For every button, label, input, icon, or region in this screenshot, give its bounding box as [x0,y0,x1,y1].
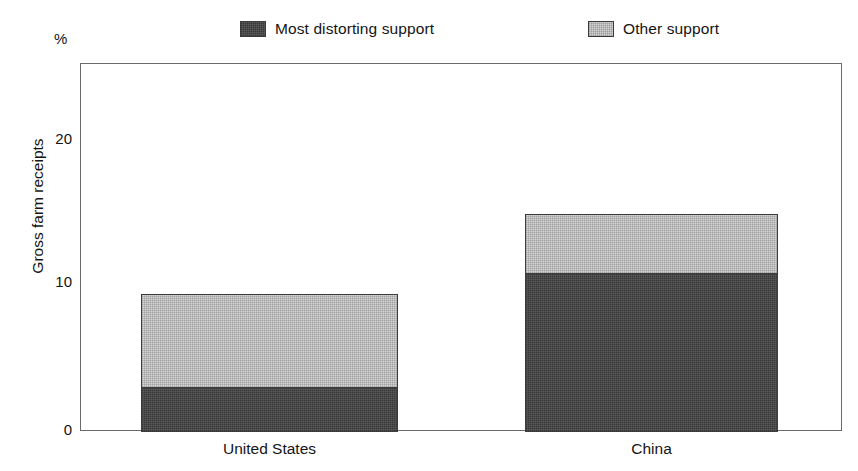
stacked-bar-chart: Most distorting support Other support % … [0,0,858,471]
plot-area [80,63,842,431]
bar-segment-united-states-most-distorting-support[interactable] [141,388,398,432]
y-tick-label-20: 20 [26,130,72,147]
legend-label-most-distorting-support: Most distorting support [275,20,434,38]
legend-label-other-support: Other support [623,20,719,38]
x-axis-label-china: China [525,440,778,458]
bar-segment-united-states-other-support[interactable] [141,294,398,387]
y-tick-label-0: 0 [26,421,72,438]
legend-entry-most-distorting-support: Most distorting support [240,20,434,38]
dark-swatch-icon [240,21,266,37]
bar-segment-china-other-support[interactable] [525,214,778,273]
y-tick-label-10: 10 [26,273,72,290]
x-axis-label-united-states: United States [141,440,398,458]
bar-segment-china-most-distorting-support[interactable] [525,274,778,432]
light-swatch-icon [588,21,614,37]
legend-entry-other-support: Other support [588,20,719,38]
y-axis-unit-label: % [54,30,67,47]
